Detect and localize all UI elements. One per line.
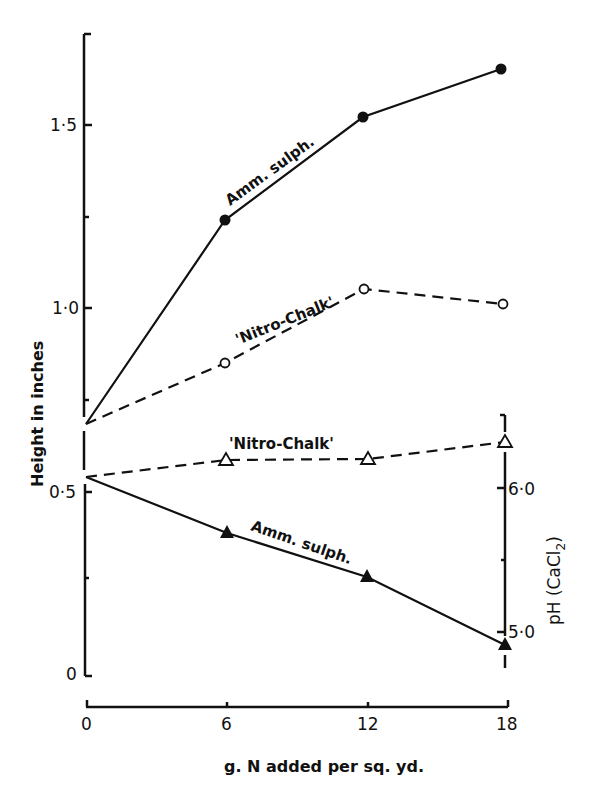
y-tick-1-0: 1·0 (52, 298, 79, 318)
label-nitro-chalk-upper: 'Nitro-Chalk' (233, 293, 337, 349)
y-tick-1-5: 1·5 (50, 115, 77, 135)
label-amm-sulph-upper: Amm. sulph. (222, 133, 318, 210)
marker-filled-circle (358, 112, 369, 123)
series-amm-sulph-height (86, 64, 507, 425)
y2-tick-6-0: 6·0 (508, 479, 535, 499)
right-y-axis (497, 415, 505, 668)
x-axis-title: g. N added per sq. yd. (224, 757, 424, 776)
y-tick-0-5: 0·5 (49, 482, 76, 502)
label-nitro-chalk-lower: 'Nitro-Chalk' (229, 435, 334, 453)
left-y-axis (84, 34, 92, 676)
y-tick-0: 0 (66, 664, 77, 684)
y2-tick-5-0: 5·0 (508, 622, 535, 642)
label-amm-sulph-lower: Amm. sulph. (249, 517, 355, 568)
x-tick-12: 12 (357, 714, 379, 734)
y2-axis-title: pH (CaCl2) (544, 536, 568, 625)
x-tick-18: 18 (496, 714, 518, 734)
marker-filled-circle (496, 64, 507, 75)
x-axis (86, 700, 508, 707)
svg-text:pH (CaCl2): pH (CaCl2) (544, 536, 568, 625)
marker-open-circle (499, 300, 508, 309)
x-tick-6: 6 (221, 714, 232, 734)
x-tick-0: 0 (81, 714, 92, 734)
marker-open-circle (360, 285, 369, 294)
marker-open-triangle (498, 435, 512, 447)
line-chart: 1·5 1·0 0·5 0 Height in inches 6·0 5·0 p… (0, 0, 591, 797)
y-axis-title: Height in inches (28, 341, 47, 487)
series-amm-sulph-ph (86, 477, 512, 650)
marker-open-circle (221, 359, 230, 368)
marker-filled-circle (220, 215, 231, 226)
